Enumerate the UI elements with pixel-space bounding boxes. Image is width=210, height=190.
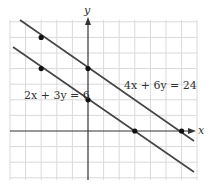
point-3-0 <box>132 128 137 133</box>
x-axis-label: x <box>198 124 205 137</box>
line2-label: 2x + 3y = 6 <box>24 89 90 102</box>
point-neg3-6 <box>39 35 44 40</box>
point-6-0 <box>179 128 184 133</box>
x-axis-arrow-icon <box>188 128 196 134</box>
point-neg3-4 <box>39 66 44 71</box>
y-axis-label: y <box>83 4 91 17</box>
line1-label: 4x + 6y = 24 <box>124 79 197 92</box>
y-axis-arrow-icon <box>85 17 91 25</box>
point-0-4 <box>85 66 90 71</box>
chart-figure: y x 4x + 6y = 24 2x + 3y = 6 <box>0 0 210 190</box>
